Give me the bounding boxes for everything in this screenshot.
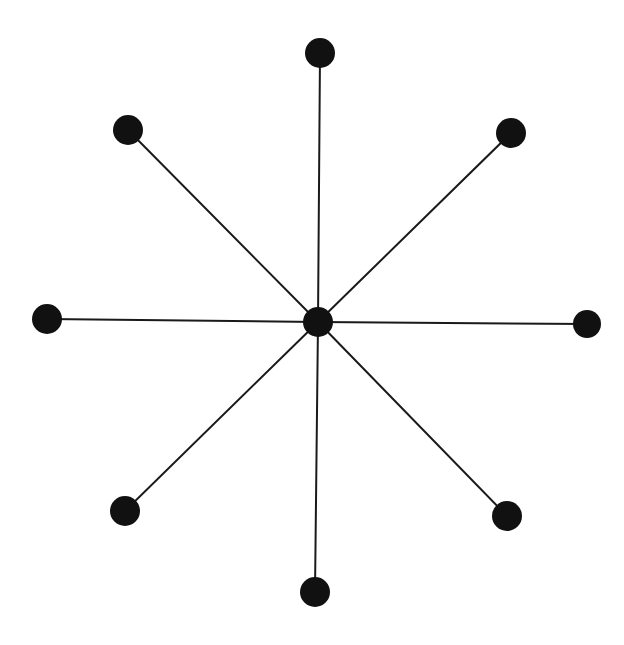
edge-center-left xyxy=(47,319,318,322)
node-bottom-right xyxy=(492,501,522,531)
node-top-left xyxy=(113,115,143,145)
node-top-right xyxy=(496,118,526,148)
node-bottom-left xyxy=(110,496,140,526)
edge-center-top-right xyxy=(318,133,511,322)
node-bottom xyxy=(300,577,330,607)
star-graph-diagram xyxy=(0,0,624,645)
node-right xyxy=(573,310,601,338)
edge-center-top xyxy=(318,53,320,322)
edge-center-top-left xyxy=(128,130,318,322)
edge-center-bottom-right xyxy=(318,322,507,516)
node-left xyxy=(32,304,62,334)
edge-center-bottom xyxy=(315,322,318,592)
edge-center-bottom-left xyxy=(125,322,318,511)
edge-center-right xyxy=(318,322,587,324)
node-center xyxy=(303,307,333,337)
node-top xyxy=(305,38,335,68)
